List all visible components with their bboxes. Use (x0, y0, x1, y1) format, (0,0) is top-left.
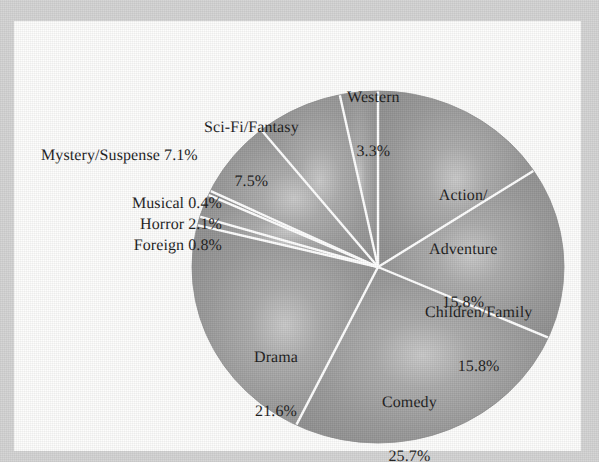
pie-label-musical: Musical 0.4% (100, 195, 222, 213)
pie-label-mystery-suspense: Mystery/Suspense 7.1% (41, 147, 198, 165)
pie-label-western-name: Western (347, 89, 400, 107)
pie-label-scifi-fantasy-name: Sci-Fi/Fantasy (204, 119, 299, 137)
pie-label-children-family-value: 15.8% (425, 358, 532, 376)
pie-label-children-family: Children/Family 15.8% (425, 268, 532, 411)
scanned-page-background: Western 3.3% Sci-Fi/Fantasy 7.5% Mystery… (0, 0, 599, 462)
pie-label-western-value: 3.3% (347, 143, 400, 161)
pie-label-children-family-name: Children/Family (425, 304, 532, 322)
pie-label-drama-name: Drama (254, 349, 298, 367)
pie-label-foreign: Foreign 0.8% (90, 237, 222, 255)
pie-label-drama-value: 21.6% (254, 403, 298, 421)
pie-label-action-adventure-name2: Adventure (429, 241, 497, 259)
pie-label-comedy-name: Comedy (382, 394, 437, 412)
page-white-area: Western 3.3% Sci-Fi/Fantasy 7.5% Mystery… (14, 21, 581, 451)
pie-chart-figure: Western 3.3% Sci-Fi/Fantasy 7.5% Mystery… (14, 21, 581, 451)
pie-label-horror: Horror 2.1% (100, 216, 222, 234)
pie-label-comedy: Comedy 25.7% (382, 358, 437, 462)
pie-label-action-adventure-name1: Action/ (429, 187, 497, 205)
pie-label-western: Western 3.3% (347, 53, 400, 196)
pie-label-drama: Drama 21.6% (254, 313, 298, 456)
pie-label-scifi-fantasy-value: 7.5% (204, 173, 299, 191)
pie-label-comedy-value: 25.7% (382, 448, 437, 462)
